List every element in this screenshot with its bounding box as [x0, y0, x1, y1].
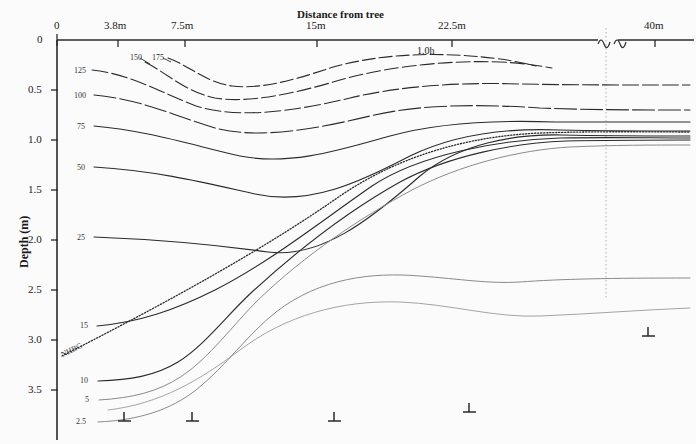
contour-label-50: 50 — [77, 164, 85, 172]
x-tick-label-15m: 15m — [306, 20, 326, 31]
axis-break-icon — [598, 28, 626, 300]
contour-label-25: 25 — [77, 234, 85, 242]
curve-nhbc-limit-line — [62, 132, 690, 356]
y-tick-label-2_5: 2.5 — [28, 284, 42, 295]
tree-height-annotation: 1.0h — [417, 46, 435, 56]
curve-contour-125 — [92, 70, 690, 113]
contour-label-15: 15 — [80, 322, 88, 330]
borehole-2 — [186, 412, 199, 421]
contour-label-2_5: 2.5 — [76, 418, 86, 426]
contour-label-125: 125 — [74, 67, 86, 75]
contour-label-75: 75 — [77, 123, 85, 131]
contour-label-150: 150 — [130, 54, 142, 62]
y-tick-label-3_0: 3.0 — [28, 334, 42, 345]
contour-label-100: 100 — [74, 92, 86, 100]
borehole-markers — [118, 327, 655, 421]
curve-contour-10 — [98, 140, 690, 381]
curve-contour-25 — [94, 135, 690, 253]
curve-contour-150 — [145, 62, 552, 100]
borehole-3 — [328, 412, 341, 421]
contour-label-5: 5 — [85, 396, 89, 404]
x-tick-label-0: 0 — [54, 20, 60, 31]
x-tick-label-22_5m: 22.5m — [438, 20, 466, 31]
curve-lower-arc — [108, 302, 690, 410]
y-tick-label-0_5: 0.5 — [28, 84, 42, 95]
contour-curves — [62, 55, 690, 423]
y-tick-label-1_5: 1.5 — [28, 184, 42, 195]
y-tick-label-3_5: 3.5 — [28, 384, 42, 395]
x-tick-label-7_5m: 7.5m — [171, 20, 193, 31]
x-tick-label-40m: 40m — [644, 20, 664, 31]
chart-canvas — [0, 0, 696, 444]
y-tick-label-2_0: 2.0 — [28, 234, 42, 245]
y-tick-label-0: 0 — [37, 34, 43, 45]
contour-label-10: 10 — [80, 377, 88, 385]
curve-contour-5 — [99, 145, 690, 400]
contour-label-175: 175 — [152, 54, 164, 62]
x-tick-label-3_8m: 3.8m — [104, 20, 126, 31]
curve-contour-175 — [168, 55, 536, 87]
curve-contour-100 — [94, 95, 690, 133]
borehole-4 — [463, 403, 476, 412]
borehole-5 — [642, 327, 655, 336]
chart-root: Distance from tree Depth (m) 0 3.8m 7.5m… — [0, 0, 696, 444]
y-tick-label-1_0: 1.0 — [28, 134, 42, 145]
curve-contour-2_5 — [98, 275, 690, 422]
